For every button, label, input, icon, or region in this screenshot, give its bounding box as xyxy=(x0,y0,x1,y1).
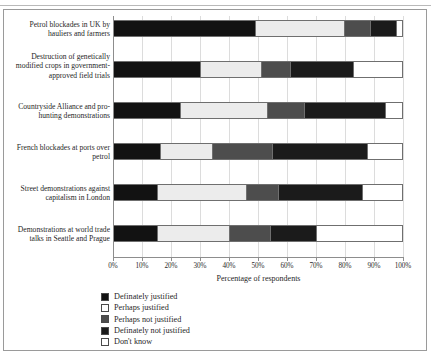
category-label: French blockades at ports over petrol xyxy=(4,143,110,162)
plot-area xyxy=(113,16,403,257)
gridline xyxy=(374,16,375,257)
legend-label: Definately justified xyxy=(114,292,177,301)
category-label: Countryside Alliance and pro-hunting dem… xyxy=(4,102,110,121)
top-divider-rule xyxy=(0,5,431,6)
bar-segment xyxy=(353,62,402,77)
stacked-bar xyxy=(113,143,403,160)
x-axis-tick xyxy=(345,257,346,261)
stacked-bar xyxy=(113,102,403,119)
bar-segment xyxy=(278,185,362,200)
x-axis-tick xyxy=(200,257,201,261)
legend-swatch xyxy=(101,338,109,346)
category-label: Petrol blockades in UK by hauliers and f… xyxy=(4,20,110,39)
gridline xyxy=(229,16,230,257)
bar-segment xyxy=(304,103,385,118)
bar-segment xyxy=(246,185,278,200)
gridline xyxy=(287,16,288,257)
bar-segment xyxy=(157,185,246,200)
stacked-bar xyxy=(113,20,403,37)
legend-label: Perhaps not justified xyxy=(114,315,181,324)
x-axis-tick xyxy=(142,257,143,261)
legend-item: Definately not justified xyxy=(101,325,301,336)
bar-segment xyxy=(396,21,402,36)
x-axis-tick xyxy=(316,257,317,261)
x-axis-title: Percentage of respondents xyxy=(113,274,404,283)
bar-segment xyxy=(255,21,344,36)
bar-segment xyxy=(180,103,266,118)
category-axis-labels: Petrol blockades in UK by hauliers and f… xyxy=(0,16,110,257)
bar-segment xyxy=(367,144,402,159)
stacked-bar xyxy=(113,184,403,201)
bar-segment xyxy=(272,144,367,159)
legend-item: Perhaps not justified xyxy=(101,314,301,325)
x-axis-tick xyxy=(403,257,404,261)
legend-label: Definately not justified xyxy=(114,326,190,335)
gridline xyxy=(200,16,201,257)
x-axis-tick xyxy=(171,257,172,261)
stacked-bar xyxy=(113,61,403,78)
bar-segment xyxy=(114,21,255,36)
legend-label: Don't know xyxy=(114,337,152,346)
bar-segment xyxy=(200,62,260,77)
category-label: Demonstrations at world trade talks in S… xyxy=(4,225,110,244)
legend-item: Definately justified xyxy=(101,291,301,302)
bar-segment xyxy=(114,103,180,118)
chart-figure: Petrol blockades in UK by hauliers and f… xyxy=(0,0,431,356)
x-axis-tick xyxy=(113,257,114,261)
bar-segment xyxy=(212,144,272,159)
legend-swatch xyxy=(101,315,109,323)
bar-segment xyxy=(362,185,402,200)
gridline xyxy=(316,16,317,257)
x-axis-tick xyxy=(258,257,259,261)
legend-swatch xyxy=(101,293,109,301)
legend-swatch xyxy=(101,327,109,335)
x-axis-tick xyxy=(374,257,375,261)
x-axis-tick-label: 100% xyxy=(386,262,420,270)
bar-segment xyxy=(267,103,304,118)
bar-segment xyxy=(114,226,157,241)
gridline xyxy=(142,16,143,257)
bar-segment xyxy=(160,144,212,159)
bar-segment xyxy=(261,62,290,77)
bar-segment xyxy=(316,226,402,241)
chart-legend: Definately justifiedPerhaps justifiedPer… xyxy=(101,291,301,347)
bar-segment xyxy=(370,21,396,36)
x-axis-tick xyxy=(287,257,288,261)
bar-segment xyxy=(114,144,160,159)
legend-item: Don't know xyxy=(101,336,301,347)
gridline xyxy=(171,16,172,257)
x-axis-tick xyxy=(229,257,230,261)
gridline xyxy=(258,16,259,257)
bar-segment xyxy=(157,226,229,241)
bar-segment xyxy=(290,62,353,77)
bar-segment xyxy=(385,103,402,118)
gridline xyxy=(345,16,346,257)
category-label: Street demonstrations against capitalism… xyxy=(4,184,110,203)
legend-item: Perhaps justified xyxy=(101,302,301,313)
y-axis-line xyxy=(113,16,114,257)
category-label: Destruction of genetically modified crop… xyxy=(4,52,110,80)
legend-swatch xyxy=(101,304,109,312)
bar-segment xyxy=(114,185,157,200)
stacked-bar xyxy=(113,225,403,242)
bar-segment xyxy=(344,21,370,36)
gridline xyxy=(403,16,404,257)
bar-segment xyxy=(114,62,200,77)
bar-segment xyxy=(229,226,269,241)
bar-segment xyxy=(270,226,316,241)
legend-label: Perhaps justified xyxy=(114,303,169,312)
